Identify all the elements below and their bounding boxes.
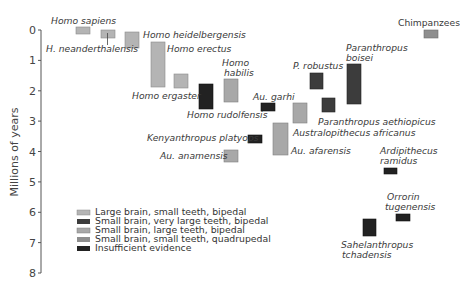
legend-swatch-large-teeth	[77, 228, 90, 233]
y-tick-label: 1	[29, 54, 36, 67]
y-tick-label: 2	[29, 85, 36, 98]
label-africanus: Australopithecus africanus	[292, 127, 416, 138]
hominin-timeline-chart: 0 1 2 3 4 5 6 7 8 Millions of years	[0, 0, 460, 284]
label-rudolfensis: Homo rudolfensis	[187, 109, 268, 120]
y-tick-label: 3	[29, 115, 36, 128]
y-tick-label: 5	[29, 176, 36, 189]
bar-africanus	[293, 103, 307, 123]
y-tick-label: 8	[29, 267, 36, 280]
label-afarensis: Au. afarensis	[290, 145, 351, 156]
label-boisei: boisei	[346, 52, 373, 63]
bar-sahelanthropus	[363, 219, 376, 236]
y-tick-label: 0	[29, 24, 36, 37]
label-ramidus: ramidus	[380, 155, 418, 166]
bar-ramidus	[384, 168, 397, 174]
bar-erectus	[151, 42, 165, 87]
bar-robustus	[310, 73, 323, 89]
y-tick-label: 6	[29, 206, 36, 219]
bar-ergaster	[174, 74, 188, 88]
bar-aethiopicus	[322, 98, 335, 112]
label-platyops: Kenyanthropus platyops	[147, 132, 259, 143]
bar-afarensis	[273, 123, 288, 155]
label-anamensis: Au. anamensis	[159, 150, 228, 161]
legend-label: Insufficient evidence	[95, 242, 192, 253]
bar-neanderthalensis	[101, 30, 115, 38]
label-ergaster: Homo ergaster	[132, 90, 202, 101]
label-sahelanthropus: tchadensis	[342, 249, 392, 260]
legend: Large brain, small teeth, bipedal Small …	[77, 206, 271, 253]
bar-habilis	[224, 79, 238, 102]
legend-swatch-very-large-teeth	[77, 219, 90, 224]
label-habilis: habilis	[224, 67, 254, 78]
y-axis-label: Millions of years	[8, 107, 21, 196]
label-garhi: Au. garhi	[252, 91, 295, 102]
bar-rudolfensis	[199, 84, 213, 109]
y-axis: 0 1 2 3 4 5 6 7 8 Millions of years	[8, 24, 41, 280]
y-tick-label: 7	[29, 237, 36, 250]
legend-swatch-insufficient	[77, 246, 90, 251]
label-neanderthalensis: H. neanderthalensis	[46, 43, 138, 54]
bar-orrorin	[396, 214, 410, 221]
bar-homo-sapiens	[76, 27, 90, 34]
label-aethiopicus: Paranthropus aethiopicus	[318, 116, 436, 127]
label-homo-sapiens: Homo sapiens	[51, 15, 116, 26]
legend-swatch-quadrupedal	[77, 237, 90, 242]
label-robustus: P. robustus	[293, 60, 343, 71]
label-heidelbergensis: Homo heidelbergensis	[143, 29, 246, 40]
label-chimpanzees: Chimpanzees	[398, 17, 460, 28]
bar-boisei	[347, 64, 361, 104]
label-erectus: Homo erectus	[167, 43, 232, 54]
y-tick-label: 4	[29, 146, 36, 159]
legend-swatch-large-brain	[77, 210, 90, 215]
label-orrorin: tugenensis	[385, 201, 436, 212]
bar-chimpanzees	[424, 30, 438, 38]
